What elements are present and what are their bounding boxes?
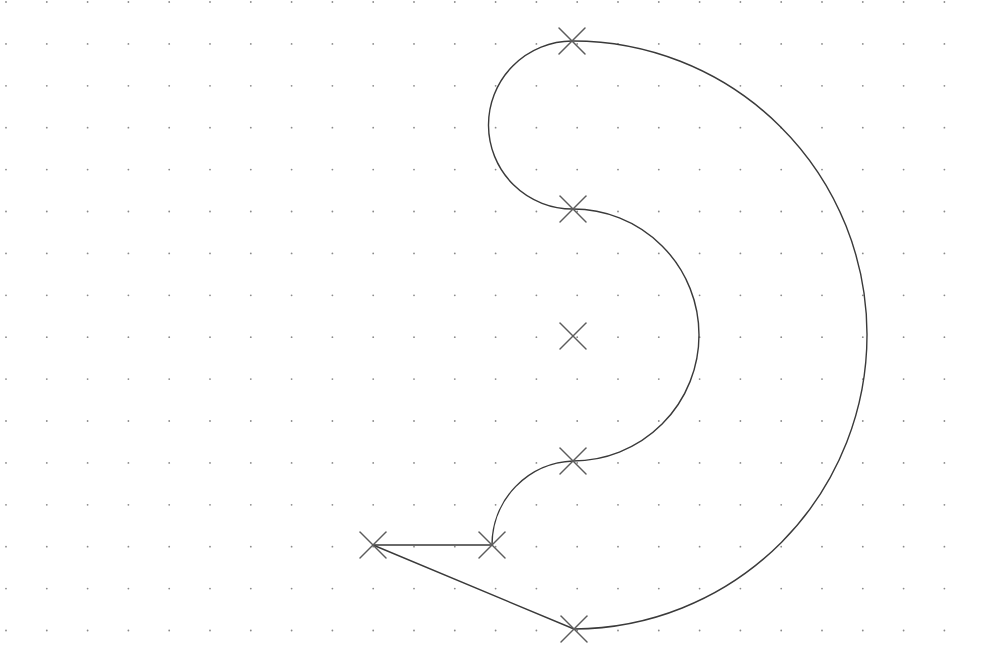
grid-dot (127, 546, 129, 548)
grid-dot (495, 420, 497, 422)
grid-dot (332, 169, 334, 171)
grid-dot (454, 294, 456, 296)
grid-dot (821, 211, 823, 213)
grid-dot (821, 85, 823, 87)
grid-dot (46, 169, 48, 171)
grid-dot (332, 85, 334, 87)
grid-dot (617, 336, 619, 338)
grid-dot (576, 294, 578, 296)
top-small-arc[interactable] (488, 41, 573, 209)
grid-dot (780, 253, 782, 255)
grid-dot (5, 630, 7, 632)
grid-dot (617, 253, 619, 255)
grid-dot (780, 588, 782, 590)
grid-dot (903, 211, 905, 213)
outer-arc[interactable] (572, 41, 867, 629)
grid-dot (454, 420, 456, 422)
grid-dot (903, 336, 905, 338)
grid-dot (127, 294, 129, 296)
grid-dot (454, 169, 456, 171)
grid-dot (536, 1, 538, 3)
grid-dot (944, 294, 946, 296)
grid-dot (536, 420, 538, 422)
grid-dot (536, 462, 538, 464)
grid-dot (372, 462, 374, 464)
grid-dot (454, 462, 456, 464)
grid-dot (862, 504, 864, 506)
grid-dot (127, 43, 129, 45)
grid-dot (209, 546, 211, 548)
grid-dot (372, 169, 374, 171)
grid-dot (944, 462, 946, 464)
grid-dot (658, 378, 660, 380)
grid-dot (168, 420, 170, 422)
grid-dot (5, 462, 7, 464)
grid-dot (209, 43, 211, 45)
grid-dot (862, 588, 864, 590)
grid-dot (127, 211, 129, 213)
grid-dot (5, 336, 7, 338)
grid-dot (127, 127, 129, 129)
grid-dot (617, 378, 619, 380)
grid-dot (576, 127, 578, 129)
grid-dot (495, 85, 497, 87)
grid-dot (495, 378, 497, 380)
grid-dot (699, 127, 701, 129)
grid-dot (576, 85, 578, 87)
grid-dot (332, 504, 334, 506)
grid-dot (903, 546, 905, 548)
grid-dot (617, 85, 619, 87)
grid-dot (944, 127, 946, 129)
grid-dot (617, 294, 619, 296)
grid-dot (413, 588, 415, 590)
grid-dot (658, 1, 660, 3)
inner-arc[interactable] (573, 209, 699, 461)
grid-dot (413, 336, 415, 338)
grid-dot (332, 294, 334, 296)
grid-dot (536, 85, 538, 87)
grid-dot (658, 169, 660, 171)
grid-dot (291, 294, 293, 296)
grid-dot (495, 336, 497, 338)
grid-dot (332, 43, 334, 45)
grid-dot (127, 378, 129, 380)
grid-dot (740, 253, 742, 255)
diagonal-line[interactable] (373, 545, 574, 629)
grid-dot (127, 1, 129, 3)
grid-dot (291, 546, 293, 548)
grid-dot (5, 127, 7, 129)
grid-dot (862, 546, 864, 548)
grid-dot (454, 253, 456, 255)
grid-dot (250, 462, 252, 464)
grid-dot (576, 253, 578, 255)
grid-dot (127, 336, 129, 338)
grid-dot (780, 294, 782, 296)
grid-dot (87, 336, 89, 338)
grid-dot (862, 336, 864, 338)
grid-dot (87, 630, 89, 632)
x-marker-icon[interactable] (560, 323, 586, 349)
grid-dot (454, 211, 456, 213)
grid-dot (413, 253, 415, 255)
grid-dot (413, 43, 415, 45)
grid-dot (209, 211, 211, 213)
grid-dot (536, 169, 538, 171)
grid-dot (250, 1, 252, 3)
grid-dot (658, 504, 660, 506)
grid-dot (903, 169, 905, 171)
grid-dot (576, 546, 578, 548)
grid-dot (46, 43, 48, 45)
grid-dot (291, 462, 293, 464)
grid-dot (5, 169, 7, 171)
grid-dot (617, 462, 619, 464)
drawing-canvas[interactable] (0, 0, 982, 666)
grid-dot (291, 43, 293, 45)
drawn-shape[interactable] (373, 41, 867, 629)
grid-dot (168, 253, 170, 255)
grid-dot (740, 336, 742, 338)
grid-dot (372, 294, 374, 296)
grid-dot (209, 294, 211, 296)
grid-dot (495, 630, 497, 632)
grid-dot (168, 588, 170, 590)
grid-dot (821, 336, 823, 338)
